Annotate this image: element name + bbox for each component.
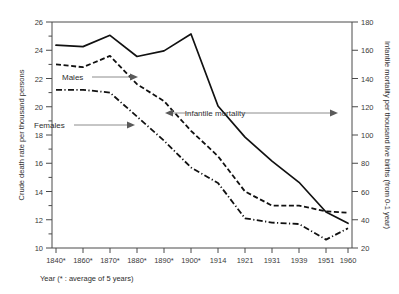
plot-frame bbox=[52, 22, 352, 248]
right-tick-label: 20 bbox=[361, 244, 369, 253]
right-tick-label: 100 bbox=[361, 131, 374, 140]
chart-figure: 26 24 22 20 18 16 14 12 10 180 160 140 bbox=[0, 0, 399, 294]
y-axis-title: Crude death rate per thousand persons bbox=[17, 69, 26, 200]
left-tick-label: 18 bbox=[35, 131, 43, 140]
x-tick-label: 1960 bbox=[340, 256, 357, 265]
left-tick-label: 20 bbox=[35, 103, 43, 112]
annotation-infantile-label: Infantile mortality bbox=[185, 109, 245, 118]
x-tick-label: 1951 bbox=[318, 256, 335, 265]
right-tick-label: 40 bbox=[361, 216, 369, 225]
left-tick-label: 26 bbox=[35, 18, 43, 27]
left-tick-label: 14 bbox=[35, 188, 43, 197]
x-axis-tick-labels: 1840* 1860* 1870* 1880* 1890* 1900* 1914… bbox=[46, 256, 356, 265]
right-tick-label: 140 bbox=[361, 75, 374, 84]
x-axis-title: Year (* : average of 5 years) bbox=[40, 274, 134, 283]
right-tick-label: 60 bbox=[361, 188, 369, 197]
left-tick-label: 22 bbox=[35, 75, 43, 84]
right-tick-label: 180 bbox=[361, 18, 374, 27]
annotation-males: Males bbox=[62, 73, 138, 82]
right-axis-tick-labels: 180 160 140 120 100 80 60 40 20 bbox=[361, 18, 374, 253]
annotation-females: Females bbox=[34, 121, 135, 130]
x-tick-label: 1890* bbox=[154, 256, 174, 265]
annotation-females-label: Females bbox=[34, 121, 65, 130]
x-tick-label: 1870* bbox=[100, 256, 120, 265]
series-group bbox=[56, 34, 348, 240]
annotation-males-label: Males bbox=[62, 73, 83, 82]
right-axis-ticks bbox=[352, 22, 358, 248]
x-tick-label: 1840* bbox=[46, 256, 66, 265]
left-tick-label: 10 bbox=[35, 244, 43, 253]
x-tick-label: 1900* bbox=[181, 256, 201, 265]
x-tick-label: 1914 bbox=[210, 256, 227, 265]
right-tick-label: 80 bbox=[361, 159, 369, 168]
left-tick-label: 12 bbox=[35, 216, 43, 225]
left-tick-label: 24 bbox=[35, 46, 43, 55]
x-tick-label: 1860* bbox=[73, 256, 93, 265]
x-tick-label: 1880* bbox=[127, 256, 147, 265]
arrow-head-icon bbox=[130, 74, 138, 81]
arrow-head-icon bbox=[165, 110, 173, 117]
x-tick-label: 1921 bbox=[237, 256, 254, 265]
x-axis-ticks bbox=[56, 248, 348, 253]
line-chart: 26 24 22 20 18 16 14 12 10 180 160 140 bbox=[0, 0, 399, 294]
series-infantile-mortality bbox=[56, 34, 348, 223]
left-tick-label: 16 bbox=[35, 159, 43, 168]
y2-axis-title: Infantile mortality per thousand live bi… bbox=[383, 41, 392, 229]
arrow-head-icon bbox=[330, 110, 338, 117]
left-axis-ticks bbox=[46, 22, 52, 248]
right-tick-label: 160 bbox=[361, 46, 374, 55]
annotation-infantile-mortality: Infantile mortality bbox=[165, 109, 338, 118]
left-axis-tick-labels: 26 24 22 20 18 16 14 12 10 bbox=[35, 18, 43, 253]
x-tick-label: 1931 bbox=[264, 256, 281, 265]
x-tick-label: 1939 bbox=[291, 256, 308, 265]
right-tick-label: 120 bbox=[361, 103, 374, 112]
arrow-head-icon bbox=[127, 122, 135, 129]
